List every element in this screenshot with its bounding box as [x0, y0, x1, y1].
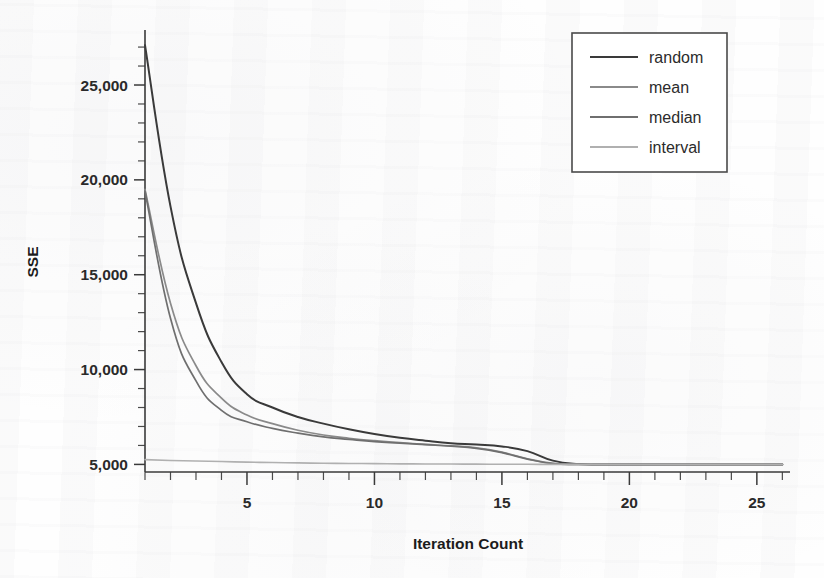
y-tick-label: 5,000 — [89, 456, 128, 473]
y-tick-label: 25,000 — [81, 77, 128, 94]
legend-label-median: median — [649, 109, 701, 126]
series-line-mean — [145, 189, 782, 464]
legend-label-mean: mean — [649, 79, 689, 96]
y-tick-label: 10,000 — [81, 361, 128, 378]
legend-label-random: random — [649, 49, 703, 66]
legend-label-interval: interval — [649, 139, 701, 156]
x-axis-ticks — [145, 472, 782, 485]
x-axis-tick-labels: 510152025 — [243, 494, 766, 511]
x-tick-label: 25 — [748, 494, 766, 511]
y-tick-label: 20,000 — [81, 171, 128, 188]
y-axis-title: SSE — [24, 246, 41, 277]
x-tick-label: 5 — [243, 494, 252, 511]
x-tick-label: 10 — [366, 494, 383, 511]
y-axis-ticks — [134, 47, 145, 464]
y-tick-label: 15,000 — [81, 266, 128, 283]
series-line-interval — [145, 460, 782, 465]
chart-page: 5,00010,00015,00020,00025,000 510152025 … — [0, 0, 824, 578]
x-axis-title: Iteration Count — [413, 535, 523, 552]
chart-legend: randommeanmedianinterval — [572, 33, 727, 172]
y-axis-tick-labels: 5,00010,00015,00020,00025,000 — [81, 77, 128, 473]
series-line-median — [145, 191, 782, 464]
x-tick-label: 15 — [493, 494, 511, 511]
line-chart: 5,00010,00015,00020,00025,000 510152025 … — [0, 0, 824, 578]
x-tick-label: 20 — [621, 494, 638, 511]
